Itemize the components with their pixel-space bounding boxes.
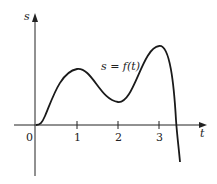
function-annotation: s = f(t)	[101, 60, 140, 73]
y-axis-label: s	[24, 10, 30, 23]
origin-label: 0	[26, 131, 33, 144]
x-tick-label-1: 1	[74, 131, 81, 144]
x-tick-label-2: 2	[115, 131, 122, 144]
position-function-chart: s t 0 1 2 3 s = f(t)	[0, 0, 217, 184]
y-axis-arrow-icon	[32, 13, 38, 22]
x-axis-label: t	[200, 127, 205, 140]
x-tick-label-3: 3	[156, 131, 163, 144]
